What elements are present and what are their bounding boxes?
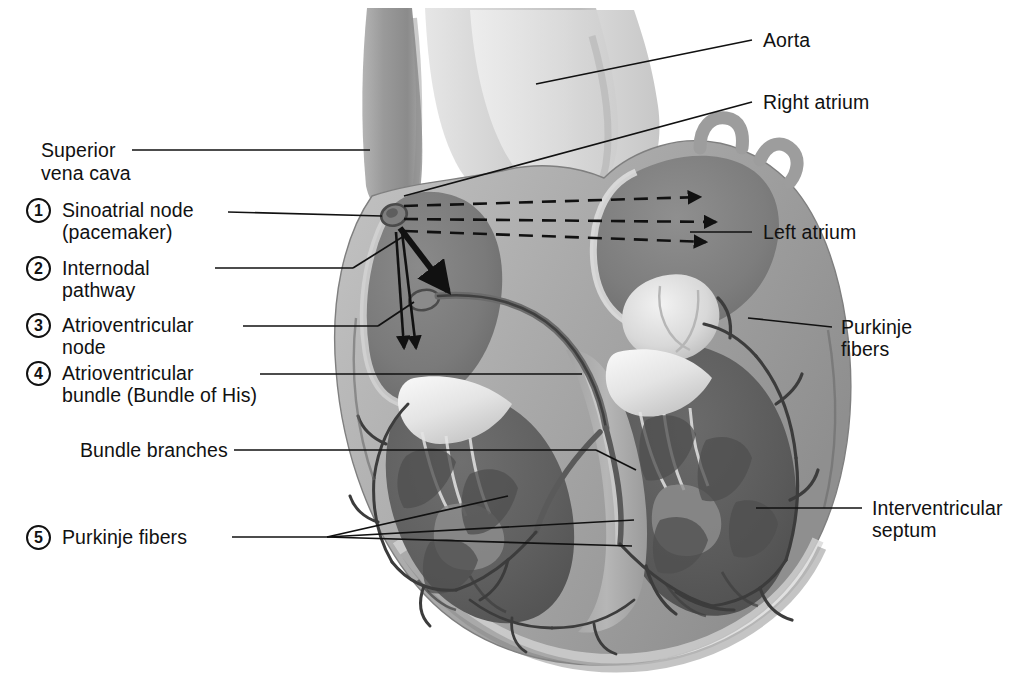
internodal-arrow-2	[404, 219, 716, 222]
label-purkinje-right-1: Purkinje	[841, 316, 912, 339]
label-purkinje-right-2: fibers	[841, 338, 889, 361]
label-sinoatrial-node: Sinoatrial node	[62, 199, 194, 222]
internodal-arrow-1	[404, 197, 700, 206]
leader-purkinje-left-fork-c	[327, 537, 632, 546]
label-pacemaker: (pacemaker)	[62, 221, 173, 244]
internodal-arrow-3	[404, 231, 706, 242]
label-superior: Superior	[41, 139, 116, 162]
label-right-atrium: Right atrium	[763, 91, 869, 114]
label-left-atrium: Left atrium	[763, 221, 856, 244]
heart-conduction-figure: 1 2 3 4 5 Superior vena cava Sinoatrial …	[0, 0, 1017, 695]
label-vena-cava: vena cava	[41, 162, 131, 185]
leader-right-atrium	[404, 102, 752, 196]
leader-aorta	[536, 40, 752, 84]
label-aorta: Aorta	[763, 29, 810, 52]
label-atrioventricular-3: Atrioventricular	[62, 314, 194, 337]
label-bundle-branches: Bundle branches	[80, 439, 228, 462]
leader-bundle-branches-hook	[596, 450, 636, 470]
label-node: node	[62, 336, 106, 359]
badge-4: 4	[26, 361, 51, 386]
internodal-dashed-arrows	[404, 197, 716, 242]
badge-5: 5	[26, 525, 51, 550]
label-atrioventricular-4: Atrioventricular	[62, 362, 194, 385]
label-septum: septum	[872, 519, 937, 542]
leader-purkinje-fibers-right	[748, 318, 832, 327]
label-bundle-of-his: bundle (Bundle of His)	[62, 384, 257, 407]
sa-to-av-arrows	[396, 228, 448, 348]
leader-purkinje-left-fork-a	[327, 496, 508, 537]
label-purkinje-fibers-left: Purkinje fibers	[62, 526, 187, 549]
badge-2: 2	[26, 256, 51, 281]
label-internodal: Internodal	[62, 257, 150, 280]
label-interventricular: Interventricular	[872, 497, 1003, 520]
leader-atrioventricular-node-branch	[378, 302, 414, 326]
badge-1: 1	[26, 198, 51, 223]
label-pathway: pathway	[62, 279, 135, 302]
badge-3: 3	[26, 313, 51, 338]
leader-purkinje-left-fork-b	[327, 520, 634, 537]
leader-sinoatrial-node	[228, 212, 382, 216]
